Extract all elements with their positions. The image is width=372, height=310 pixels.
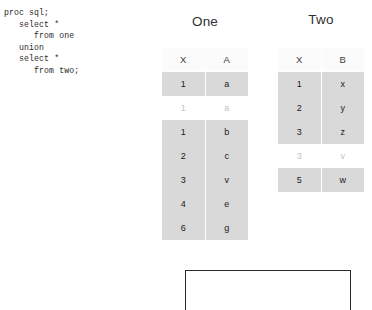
code-line: select * [4, 19, 79, 31]
table-cell: a [205, 72, 248, 97]
table-title-two: Two [278, 12, 364, 27]
table-cell: x [321, 72, 364, 97]
code-line: proc sql; [4, 7, 79, 19]
column-header-a: A [205, 48, 248, 72]
table-cell: 3 [162, 168, 205, 192]
data-table-one: X A 1a1a1b2c3v4e6g [162, 48, 248, 240]
table-row: 6g [162, 216, 248, 240]
table-row: 5w [278, 168, 364, 192]
table-cell: a [205, 96, 248, 120]
table-cell: v [205, 168, 248, 192]
code-line: union [4, 42, 79, 54]
column-header-b: B [321, 48, 364, 72]
table-cell: 1 [278, 72, 321, 97]
table-header-row: X A [162, 48, 248, 72]
table-cell: w [321, 168, 364, 192]
table-cell: 2 [162, 144, 205, 168]
table-cell: e [205, 192, 248, 216]
table-cell: 2 [278, 96, 321, 120]
table-cell: 3 [278, 144, 321, 168]
column-header-x: X [162, 48, 205, 72]
table-cell: g [205, 216, 248, 240]
table-body-two: 1x2y3z3v5w [278, 72, 364, 193]
code-line: from two; [4, 65, 79, 77]
table-cell: y [321, 96, 364, 120]
table-cell: 1 [162, 96, 205, 120]
table-body-one: 1a1a1b2c3v4e6g [162, 72, 248, 241]
table-row: 3v [162, 168, 248, 192]
table-cell: b [205, 120, 248, 144]
table-cell: 4 [162, 192, 205, 216]
table-cell: z [321, 120, 364, 144]
code-line: from one [4, 30, 79, 42]
table-cell: 6 [162, 216, 205, 240]
table-row: 1a [162, 72, 248, 97]
column-header-x: X [278, 48, 321, 72]
sql-code-block: proc sql; select * from one union select… [4, 7, 79, 77]
table-cell: c [205, 144, 248, 168]
table-row: 2y [278, 96, 364, 120]
table-title-one: One [162, 14, 248, 29]
table-cell: 1 [162, 72, 205, 97]
table-cell: v [321, 144, 364, 168]
table-row: 1a [162, 96, 248, 120]
table-row: 3v [278, 144, 364, 168]
code-line: select * [4, 53, 79, 65]
result-table-frame [185, 270, 351, 310]
data-table-two: X B 1x2y3z3v5w [278, 48, 364, 192]
table-cell: 5 [278, 168, 321, 192]
table-row: 4e [162, 192, 248, 216]
table-row: 3z [278, 120, 364, 144]
table-row: 1x [278, 72, 364, 97]
table-row: 1b [162, 120, 248, 144]
table-header-row: X B [278, 48, 364, 72]
table-cell: 3 [278, 120, 321, 144]
table-cell: 1 [162, 120, 205, 144]
table-row: 2c [162, 144, 248, 168]
